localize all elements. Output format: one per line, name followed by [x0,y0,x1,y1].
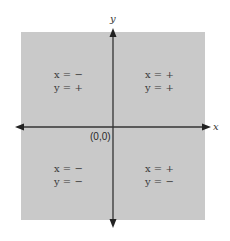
quadrant-x-sign: x = + [145,163,174,174]
x-axis-right-arrow-icon [202,124,211,131]
quadrant-y-sign: y = + [53,82,83,93]
quadrant-x-sign: x = − [54,69,83,80]
y-axis-label: y [109,13,116,24]
quadrant-x-sign: x = − [54,163,83,174]
quadrant-x-sign: x = + [145,69,174,80]
x-axis-left-arrow-icon [15,124,24,131]
x-axis-label: x [213,121,219,132]
y-axis-down-arrow-icon [110,219,117,228]
origin-label: (0,0) [90,131,111,142]
coordinate-plane-diagram: y x (0,0) x = − y = + x = + y = + x = − … [0,0,230,241]
quadrant-y-sign: y = − [144,176,174,187]
quadrant-y-sign: y = + [144,82,174,93]
quadrant-y-sign: y = − [53,176,83,187]
